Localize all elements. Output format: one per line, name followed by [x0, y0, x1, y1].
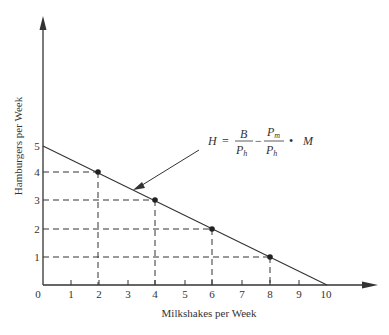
svg-text:9: 9	[296, 288, 302, 300]
svg-text:10: 10	[321, 288, 333, 300]
svg-text:B: B	[240, 127, 248, 141]
svg-text:Ph: Ph	[265, 143, 277, 158]
axes	[43, 24, 370, 285]
svg-text:Ph: Ph	[235, 143, 247, 158]
annotation-arrowhead-icon	[133, 182, 145, 190]
svg-text:2: 2	[34, 223, 40, 235]
x-axis-arrow-icon	[362, 282, 378, 289]
origin-label: 0	[35, 288, 41, 300]
svg-text:7: 7	[239, 288, 245, 300]
y-axis-arrow-icon	[40, 16, 47, 30]
budget-line	[43, 146, 327, 285]
y-axis-title: Hamburgers per Week	[12, 96, 24, 195]
svg-text:4: 4	[152, 288, 158, 300]
svg-text:6: 6	[209, 288, 215, 300]
point-4-3	[152, 197, 158, 203]
x-axis-title: Milkshakes per Week	[162, 307, 257, 319]
svg-text:1: 1	[68, 288, 74, 300]
annotation-arrow	[139, 150, 199, 187]
budget-equation: H = B Ph − Pm Ph • M	[207, 125, 314, 158]
svg-text:5: 5	[182, 288, 188, 300]
svg-text:3: 3	[34, 194, 40, 206]
budget-line-chart: 0 1 2 3 4 5 6 7 8 9 10 1 2 3 4 5 Milksha…	[0, 0, 389, 335]
x-tick-labels: 1 2 3 4 5 6 7 8 9 10	[68, 288, 332, 300]
y-tick-labels: 1 2 3 4 5	[34, 140, 40, 263]
svg-text:•: •	[289, 134, 293, 148]
point-8-1	[267, 254, 273, 260]
svg-text:5: 5	[34, 140, 40, 152]
svg-text:M: M	[302, 134, 314, 148]
guide-lines	[43, 172, 270, 285]
point-2-4	[95, 169, 101, 175]
svg-text:2: 2	[96, 288, 102, 300]
svg-text:3: 3	[125, 288, 131, 300]
point-6-2	[209, 226, 215, 232]
svg-text:H: H	[207, 134, 218, 148]
svg-text:8: 8	[267, 288, 273, 300]
svg-text:4: 4	[34, 166, 40, 178]
svg-text:Pm: Pm	[266, 125, 280, 140]
svg-text:=: =	[222, 134, 229, 148]
svg-text:1: 1	[34, 251, 40, 263]
x-ticks	[71, 280, 299, 285]
svg-text:−: −	[255, 134, 262, 148]
